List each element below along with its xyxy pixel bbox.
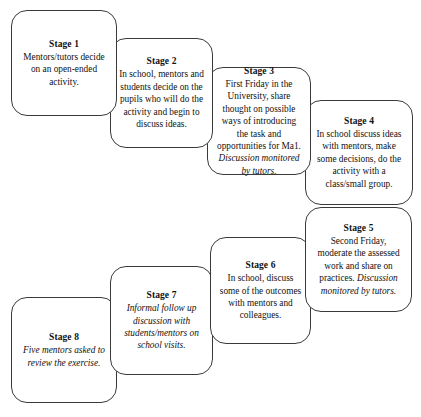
stage-body-text-7: Informal follow up discussion with stude… <box>124 303 199 350</box>
stage-title-2: Stage 2 <box>147 55 177 68</box>
stage-title-6: Stage 6 <box>246 259 276 272</box>
stage-box-7[interactable]: Stage 7 Informal follow up discussion wi… <box>110 266 213 375</box>
stage-title-1: Stage 1 <box>49 38 79 51</box>
stage-box-3[interactable]: Stage 3 First Friday in the University, … <box>207 67 311 175</box>
stage-title-8: Stage 8 <box>49 331 79 344</box>
stage-body-5: Second Friday, moderate the assessed wor… <box>312 235 405 297</box>
stage-title-4: Stage 4 <box>344 115 374 128</box>
diagram-canvas: Stage 1 Mentors/tutors decide on an open… <box>0 0 421 417</box>
stage-body-text-6: In school, discuss some of the outcomes … <box>220 273 301 320</box>
stage-body-text-1: Mentors/tutors decide on an open-ended a… <box>23 52 104 87</box>
stage-body-text-4: In school discuss ideas with mentors, ma… <box>317 129 402 189</box>
stage-title-3: Stage 3 <box>244 65 274 78</box>
stage-body-text-8: Five mentors asked to review the exercis… <box>23 345 105 367</box>
stage-body-7: Informal follow up discussion with stude… <box>117 302 206 352</box>
stage-body-italic-3: Discussion monitored by tutors. <box>218 153 299 175</box>
stage-body-text-3: First Friday in the University, share th… <box>217 79 301 151</box>
stage-body-6: In school, discuss some of the outcomes … <box>217 272 304 322</box>
stage-body-3: First Friday in the University, share th… <box>214 78 304 177</box>
stage-box-8[interactable]: Stage 8 Five mentors asked to review the… <box>11 297 117 403</box>
stage-box-2[interactable]: Stage 2 In school, mentors and students … <box>110 38 213 148</box>
stage-box-1[interactable]: Stage 1 Mentors/tutors decide on an open… <box>11 10 117 116</box>
stage-box-5[interactable]: Stage 5 Second Friday, moderate the asse… <box>305 207 412 312</box>
stage-body-2: In school, mentors and students decide o… <box>117 68 206 130</box>
stage-title-5: Stage 5 <box>344 222 374 235</box>
stage-box-4[interactable]: Stage 4 In school discuss ideas with men… <box>305 100 413 205</box>
stage-body-1: Mentors/tutors decide on an open-ended a… <box>18 51 110 88</box>
stage-body-8: Five mentors asked to review the exercis… <box>18 344 110 369</box>
stage-title-7: Stage 7 <box>147 289 177 302</box>
stage-body-4: In school discuss ideas with mentors, ma… <box>312 128 406 190</box>
stage-body-text-2: In school, mentors and students decide o… <box>119 69 204 129</box>
stage-box-6[interactable]: Stage 6 In school, discuss some of the o… <box>210 237 311 344</box>
